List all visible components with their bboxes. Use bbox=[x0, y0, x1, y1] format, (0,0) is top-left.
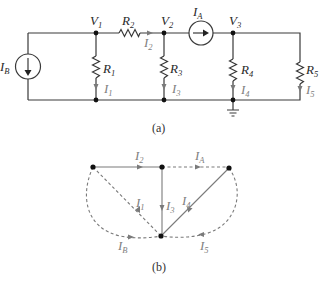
label-ib: IB bbox=[0, 59, 10, 76]
label-i3: I3 bbox=[171, 81, 181, 98]
label-r3: R3 bbox=[169, 61, 182, 78]
label-i4: I4 bbox=[240, 82, 250, 99]
label-b-ia: IA bbox=[194, 148, 205, 165]
node-bottom-3 bbox=[231, 98, 236, 103]
current-source-ia bbox=[189, 21, 213, 45]
label-b-i2: I2 bbox=[134, 148, 144, 165]
node-v1 bbox=[94, 31, 99, 36]
label-i2: I2 bbox=[143, 35, 153, 52]
circuit-figure: IB R2 I2 IA V1 V2 V3 R1 I1 R bbox=[0, 0, 326, 284]
label-r5: R5 bbox=[305, 62, 318, 79]
label-i5: I5 bbox=[305, 82, 315, 99]
arrow-i1 bbox=[94, 84, 99, 90]
graph-node-right bbox=[226, 165, 231, 170]
graph-node-left bbox=[90, 164, 95, 169]
label-b-i5: I5 bbox=[199, 238, 209, 255]
edge-i4 bbox=[161, 168, 229, 236]
label-r2: R2 bbox=[121, 13, 135, 30]
graph-node-mid bbox=[159, 164, 164, 169]
label-v3: V3 bbox=[229, 13, 241, 30]
top-wire-right bbox=[213, 33, 300, 62]
label-i1: I1 bbox=[103, 81, 113, 98]
node-v3 bbox=[231, 31, 236, 36]
resistor-r2 bbox=[119, 30, 140, 37]
node-v2 bbox=[162, 31, 167, 36]
graph-b: I2 IA I1 I3 I4 IB I5 (b) bbox=[86, 148, 237, 274]
circuit-a: IB R2 I2 IA V1 V2 V3 R1 I1 R bbox=[0, 4, 318, 135]
edge-i1 bbox=[93, 167, 161, 236]
edge-ib bbox=[86, 167, 161, 238]
edge-i5 bbox=[161, 168, 237, 237]
graph-node-bottom bbox=[158, 233, 163, 238]
label-r4: R4 bbox=[240, 62, 254, 79]
label-b-i3: I3 bbox=[165, 198, 175, 215]
label-ia: IA bbox=[192, 4, 203, 21]
label-b-i1: I1 bbox=[135, 195, 145, 212]
ground-icon bbox=[227, 100, 239, 116]
arrow-i5 bbox=[298, 86, 303, 92]
label-b-ib: IB bbox=[117, 238, 128, 255]
arrow-i4 bbox=[231, 85, 236, 91]
label-v2: V2 bbox=[161, 13, 174, 30]
arrow-i3 bbox=[162, 84, 167, 90]
node-bottom-2 bbox=[162, 98, 167, 103]
label-r1: R1 bbox=[102, 61, 115, 78]
label-b-i4: I4 bbox=[181, 193, 191, 210]
label-v1: V1 bbox=[90, 13, 102, 30]
resistor-r5 bbox=[297, 62, 304, 84]
node-bottom-1 bbox=[94, 98, 99, 103]
current-source-ib bbox=[16, 54, 41, 79]
caption-a: (a) bbox=[152, 121, 165, 135]
caption-b: (b) bbox=[152, 260, 166, 274]
